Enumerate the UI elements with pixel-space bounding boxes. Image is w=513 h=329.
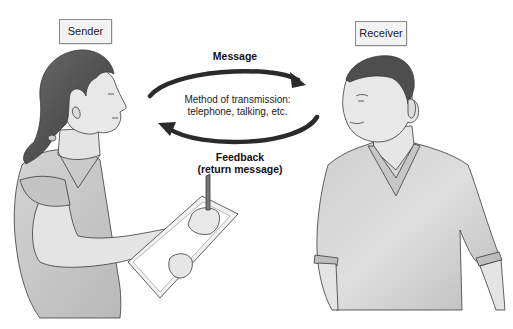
sender-figure bbox=[14, 50, 238, 318]
pen bbox=[206, 174, 210, 210]
message-arrow bbox=[150, 71, 306, 96]
feedback-line-2: (return message) bbox=[195, 163, 285, 175]
sender-label: Sender bbox=[68, 25, 103, 37]
receiver-figure bbox=[314, 56, 505, 310]
sender-holding-hand bbox=[169, 254, 193, 278]
message-label: Message bbox=[205, 50, 265, 62]
channel-line-2: telephone, talking, etc. bbox=[170, 106, 305, 118]
channel-line-1: Method of transmission: bbox=[170, 94, 305, 106]
communication-diagram: Sender Receiver Message Method of transm… bbox=[0, 0, 513, 329]
feedback-line-1: Feedback bbox=[195, 151, 285, 163]
receiver-label: Receiver bbox=[359, 27, 402, 39]
channel-description: Method of transmission: telephone, talki… bbox=[170, 94, 305, 118]
receiver-label-box: Receiver bbox=[355, 21, 407, 46]
feedback-arrow bbox=[158, 117, 317, 142]
sender-label-box: Sender bbox=[59, 19, 112, 44]
feedback-label: Feedback (return message) bbox=[195, 151, 285, 175]
